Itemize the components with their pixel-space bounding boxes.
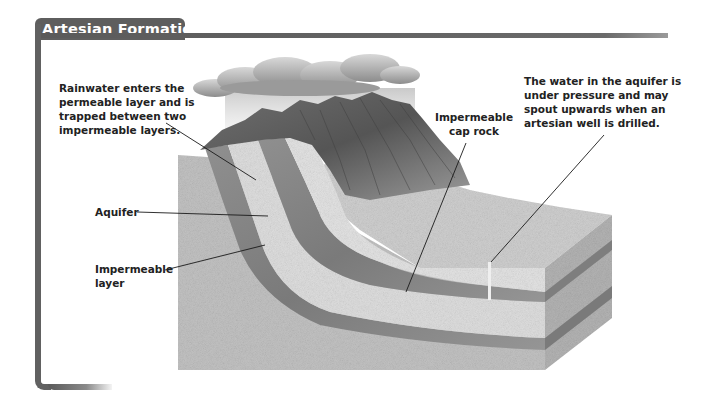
- label-rainwater: Rainwater enters the permeable layer and…: [59, 81, 199, 137]
- label-cap-rock: Impermeable cap rock: [434, 110, 514, 138]
- artesian-well: [488, 262, 491, 300]
- label-pressure: The water in the aquifer is under pressu…: [524, 74, 684, 130]
- label-aquifer: Aquifer: [95, 205, 139, 219]
- artesian-diagram: [0, 0, 707, 406]
- label-impermeable-layer: Impermeable layer: [95, 262, 165, 290]
